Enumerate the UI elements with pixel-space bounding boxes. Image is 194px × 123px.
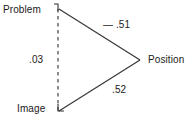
edge-image-position xyxy=(59,60,140,111)
node-label-problem: Problem xyxy=(3,4,41,15)
path-diagram: Problem Image Position — .51 .52 .03 xyxy=(0,0,194,123)
edge-label-problem-position: — .51 xyxy=(103,19,130,30)
node-label-position: Position xyxy=(148,54,184,65)
vertex-tick-problem xyxy=(54,4,58,11)
edge-problem-position xyxy=(59,9,140,60)
edge-label-problem-image: .03 xyxy=(29,54,43,65)
node-label-image: Image xyxy=(17,103,45,114)
edge-label-image-position: .52 xyxy=(112,84,126,95)
